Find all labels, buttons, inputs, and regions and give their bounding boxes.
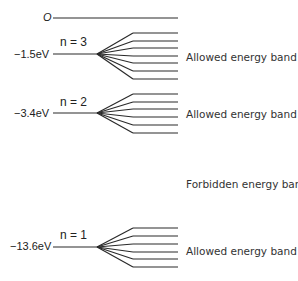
level-line: [97, 54, 133, 71]
level-line: [97, 54, 133, 79]
energy-label-n2: −3.4eV: [14, 108, 49, 119]
allowed-band-label-n3: Allowed energy band: [186, 52, 297, 63]
quantum-number-n3: n = 3: [60, 36, 87, 48]
forbidden-band-label: Forbidden energy band: [186, 179, 298, 190]
energy-label-n3: −1.5eV: [14, 49, 49, 60]
energy-label-n1: −13.6eV: [10, 241, 51, 252]
quantum-number-n2: n = 2: [60, 96, 87, 108]
zero-energy-label: O: [43, 12, 52, 23]
allowed-band-label-n2: Allowed energy band: [186, 109, 297, 120]
quantum-number-n1: n = 1: [60, 229, 87, 241]
energy-band-diagram: O −1.5eV n = 3 Allowed energy band −3.4e…: [0, 0, 298, 281]
band-lines: [0, 0, 298, 281]
allowed-band-label-n1: Allowed energy band: [186, 246, 297, 257]
